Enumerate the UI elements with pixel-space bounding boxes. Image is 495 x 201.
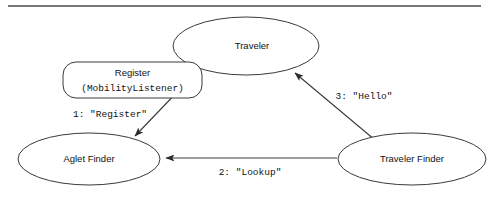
traveler-finder-label: Traveler Finder: [380, 153, 444, 164]
node-aglet-finder[interactable]: Aglet Finder: [18, 133, 160, 185]
interaction-diagram-figure: Traveler Aglet Finder Traveler Finder Re…: [0, 0, 495, 201]
register-note[interactable]: Register (MobilityListener): [63, 62, 202, 98]
edge-register-label: 1: "Register": [73, 109, 147, 120]
edge-lookup-label: 2: "Lookup": [219, 167, 282, 178]
node-traveler-finder[interactable]: Traveler Finder: [338, 133, 486, 185]
register-note-subtitle: (MobilityListener): [81, 83, 184, 94]
edge-hello: [295, 73, 375, 140]
edge-hello-label: 3: "Hello": [335, 91, 392, 102]
diagram-canvas: Traveler Aglet Finder Traveler Finder Re…: [0, 0, 495, 201]
register-note-title: Register: [115, 67, 150, 78]
edge-hello-line: [295, 73, 375, 140]
traveler-label: Traveler: [235, 40, 270, 51]
aglet-finder-label: Aglet Finder: [63, 153, 114, 164]
